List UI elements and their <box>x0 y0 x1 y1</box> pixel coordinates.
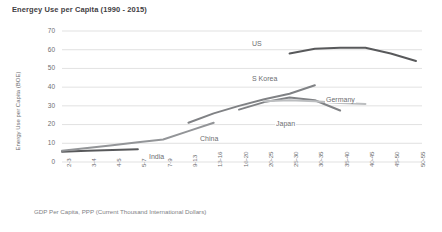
series-line-s-korea <box>188 85 314 122</box>
plot-area <box>0 0 442 232</box>
series-label-s-korea: S Korea <box>251 75 278 82</box>
chart-container: Energey Use per Capita (1990 - 2015) Ene… <box>0 0 442 232</box>
series-label-germany: Germany <box>325 96 356 103</box>
series-label-china: China <box>199 135 219 142</box>
series-label-india: India <box>148 153 165 160</box>
series-label-japan: Japan <box>275 120 296 127</box>
series-label-us: US <box>251 40 263 47</box>
series-line-china <box>62 123 214 151</box>
